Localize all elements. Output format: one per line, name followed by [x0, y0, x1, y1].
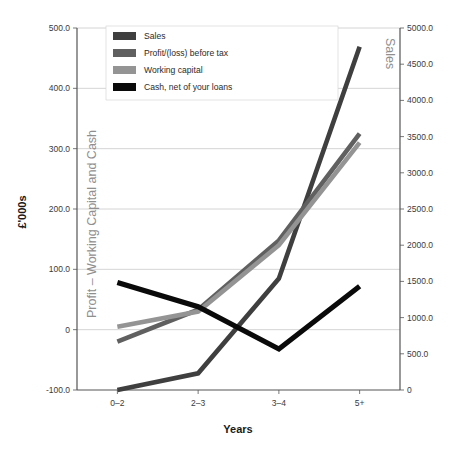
left-tick-label: 100.0: [49, 264, 71, 274]
x-category-label: 2–3: [191, 398, 205, 408]
chart-container: 500.0400.0300.0200.0100.00-100.0 5000.04…: [0, 0, 459, 454]
y-axis-title: £'000s: [16, 195, 28, 228]
right-tick-label: 500.0: [407, 349, 429, 359]
left-tick-label: 0: [65, 325, 70, 335]
left-tick-label: 300.0: [49, 144, 71, 154]
dual-axis-line-chart: 500.0400.0300.0200.0100.00-100.0 5000.04…: [0, 0, 459, 454]
left-tick-label: -100.0: [46, 385, 70, 395]
x-category-label: 3–4: [272, 398, 286, 408]
right-tick-label: 5000.0: [407, 23, 433, 33]
right-tick-label: 4500.0: [407, 59, 433, 69]
left-tick-label: 500.0: [49, 23, 71, 33]
legend-item-label: Working capital: [144, 65, 203, 75]
legend-item-label: Cash, net of your loans: [144, 82, 232, 92]
right-tick-label: 1000.0: [407, 313, 433, 323]
right-tick-label: 2500.0: [407, 204, 433, 214]
right-tick-label: 2000.0: [407, 240, 433, 250]
legend-item-label: Sales: [144, 31, 166, 41]
left-tick-label: 400.0: [49, 83, 71, 93]
left-axis-inplot-label: Profit – Working Capital and Cash: [85, 130, 99, 318]
legend-swatch: [113, 83, 136, 91]
right-tick-label: 0: [407, 385, 412, 395]
right-tick-label: 3500.0: [407, 132, 433, 142]
right-tick-label: 3000.0: [407, 168, 433, 178]
legend-swatch: [113, 32, 136, 40]
left-tick-label: 200.0: [49, 204, 71, 214]
chart-legend: SalesProfit/(loss) before taxWorking cap…: [106, 26, 338, 100]
x-axis-title: Years: [223, 423, 252, 435]
right-axis-inplot-label: Sales: [383, 38, 397, 69]
right-tick-label: 1500.0: [407, 276, 433, 286]
right-tick-label: 4000.0: [407, 95, 433, 105]
x-category-label: 0–2: [110, 398, 124, 408]
legend-swatch: [113, 66, 136, 74]
legend-item-label: Profit/(loss) before tax: [144, 48, 229, 58]
legend-swatch: [113, 49, 136, 57]
x-category-label: 5+: [355, 398, 365, 408]
